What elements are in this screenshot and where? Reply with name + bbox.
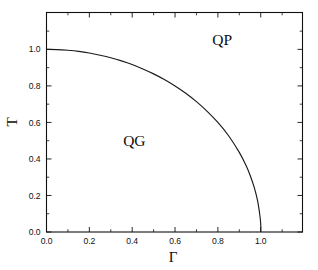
phase-boundary-curve <box>47 49 261 232</box>
x-tick-label: 1.0 <box>255 236 267 246</box>
x-tick-label: 0.4 <box>126 236 138 246</box>
x-tick-label: 0.2 <box>84 236 96 246</box>
phase-diagram-plot: 0.00.20.40.60.81.0 0.00.20.40.60.81.0 QP… <box>0 0 318 270</box>
region-label-quark-gas: QG <box>123 132 145 149</box>
y-tick-label: 0.2 <box>29 191 41 201</box>
x-axis-title: Γ <box>169 249 178 265</box>
x-tick-label: 0.0 <box>41 236 53 246</box>
region-label-quark-plasma: QP <box>212 31 232 48</box>
x-axis-tick-labels: 0.00.20.40.60.81.0 <box>41 236 267 246</box>
y-tick-label: 0.6 <box>29 118 41 128</box>
y-tick-label: 0.0 <box>29 227 41 237</box>
y-tick-label: 0.8 <box>29 81 41 91</box>
figure-container: 0.00.20.40.60.81.0 0.00.20.40.60.81.0 QP… <box>0 0 318 270</box>
x-tick-label: 0.8 <box>212 236 224 246</box>
x-tick-label: 0.6 <box>169 236 181 246</box>
y-tick-label: 1.0 <box>29 44 41 54</box>
x-axis-ticks <box>47 13 283 233</box>
plot-frame <box>47 13 303 233</box>
y-axis-tick-labels: 0.00.20.40.60.81.0 <box>29 44 41 237</box>
region-labels: QPQG <box>123 31 232 149</box>
y-axis-ticks <box>47 31 303 232</box>
y-axis-title: T <box>4 117 20 126</box>
y-tick-label: 0.4 <box>29 154 41 164</box>
